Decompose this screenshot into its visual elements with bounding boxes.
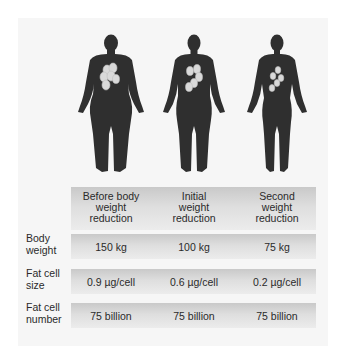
header-line: reduction [236,213,318,224]
human-body-icon [76,34,146,176]
body-silhouette-second [242,34,312,176]
label-line: number [26,314,71,326]
table-cell: 0.9 µg/cell [70,277,152,288]
table-cell: 75 billion [70,311,152,322]
body-silhouette-before [76,34,146,176]
table-cell: 75 kg [236,242,318,253]
label-line: Fat cell [26,268,71,280]
header-line: reduction [153,213,235,224]
label-line: Body [26,233,71,245]
row-label-fat-cell-number: Fat cell number [26,302,71,325]
table-cell: 75 billion [236,311,318,322]
column-header-second: Second weight reduction [236,191,318,224]
label-line: Fat cell [26,302,71,314]
row-label-fat-cell-size: Fat cell size [26,268,71,291]
human-body-icon [242,34,312,176]
column-header-before: Before body weight reduction [70,191,152,224]
table-cell: 0.2 µg/cell [236,277,318,288]
column-header-initial: Initial weight reduction [153,191,235,224]
label-line: weight [26,245,71,257]
header-line: reduction [70,213,152,224]
table-cell: 100 kg [153,242,235,253]
row-label-body-weight: Body weight [26,233,71,256]
table-cell: 150 kg [70,242,152,253]
label-line: size [26,280,71,292]
table-cell: 75 billion [153,311,235,322]
table-cell: 0.6 µg/cell [153,277,235,288]
body-silhouette-initial [159,34,229,176]
human-body-icon [159,34,229,176]
